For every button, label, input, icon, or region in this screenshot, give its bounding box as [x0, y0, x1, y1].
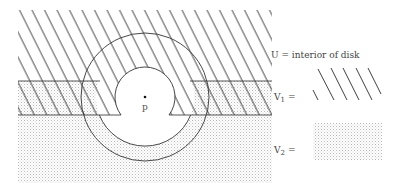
point-p-label: p	[142, 102, 148, 112]
legend-v2-equals: =	[288, 145, 296, 155]
legend-v2-subscript: 2	[281, 149, 285, 157]
svg-text:V2=: V2=	[273, 145, 296, 157]
legend-v2-stipple-swatch	[313, 123, 382, 160]
legend-v1-hatch-swatch	[313, 68, 381, 100]
legend-v1-equals: =	[288, 92, 296, 102]
legend-v1-subscript: 1	[281, 96, 285, 104]
legend-v2: V2=	[273, 123, 382, 160]
svg-text:V1=: V1=	[273, 92, 296, 104]
neighborhood-diagram: p U = interior of disk V1= V2=	[0, 0, 399, 192]
legend-v1: V1=	[273, 68, 381, 104]
v1-hatch-region	[0, 10, 280, 115]
point-p-dot	[144, 96, 147, 99]
legend-u-label: U = interior of disk	[271, 50, 360, 60]
